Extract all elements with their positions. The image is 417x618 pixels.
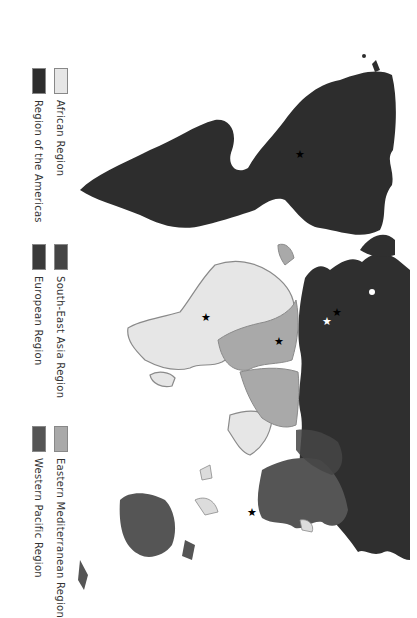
legend-label: European Region xyxy=(34,276,45,366)
legend-swatch xyxy=(32,244,46,270)
legend-label: Region of the Americas xyxy=(34,100,45,223)
legend-item-south-east-asia-region: South-East Asia Region xyxy=(54,244,68,398)
legend-item-region-of-the-americas: Region of the Americas xyxy=(32,68,46,223)
legend-swatch xyxy=(54,426,68,452)
legend-swatch xyxy=(32,68,46,94)
legend-item-european-region: European Region xyxy=(32,244,46,366)
star-icon: ★ xyxy=(201,311,211,324)
legend-label: Western Pacific Region xyxy=(34,458,45,578)
star-icon: ★ xyxy=(332,306,342,319)
star-icon: ★ xyxy=(274,335,284,348)
legend-label: Eastern Mediterranean Region xyxy=(56,458,67,618)
legend-item-western-pacific-region: Western Pacific Region xyxy=(32,426,46,578)
star-icon: ★ xyxy=(322,315,332,328)
star-icon: ★ xyxy=(247,506,257,519)
legend-label: African Region xyxy=(56,100,67,176)
legend-swatch xyxy=(54,68,68,94)
legend-swatch xyxy=(32,426,46,452)
legend-item-eastern-mediterranean-region: Eastern Mediterranean Region xyxy=(54,426,68,618)
legend-item-african-region: African Region xyxy=(54,68,68,176)
legend-swatch xyxy=(54,244,68,270)
region-americas xyxy=(80,30,396,235)
star-icon: ★ xyxy=(295,148,305,161)
legend-label: South-East Asia Region xyxy=(56,276,67,398)
